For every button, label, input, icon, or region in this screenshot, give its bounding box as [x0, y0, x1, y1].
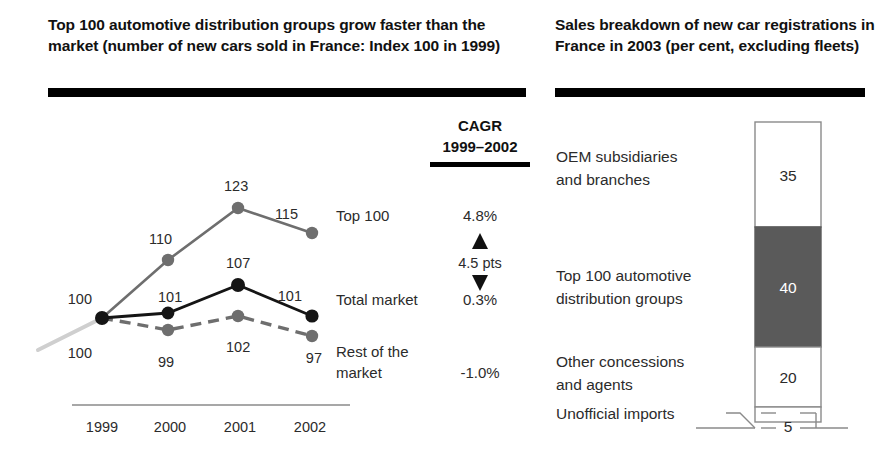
triangle-up-icon — [472, 233, 488, 249]
line-chart: 123 110 115 100 100 99 102 97 107 101 10… — [30, 105, 530, 450]
x-tick-2002: 2002 — [294, 419, 326, 435]
point-label-top100-2001: 123 — [224, 178, 248, 194]
cagr-header-rule — [430, 162, 530, 167]
bar-value-top100: 40 — [779, 279, 797, 296]
cagr-value-total-market: 0.3% — [463, 291, 497, 308]
bar-label-other-line1: Other concessions — [556, 353, 685, 370]
point-label-total-2001: 107 — [226, 255, 250, 271]
bar-value-other-concessions: 20 — [779, 369, 797, 386]
point-label-rest-2001: 102 — [226, 339, 250, 355]
triangle-down-icon — [472, 275, 488, 291]
series-point-rest-2002 — [306, 330, 318, 342]
bar-label-other-line2: and agents — [556, 376, 633, 393]
x-tick-2000: 2000 — [154, 419, 186, 435]
point-label-top100-2002: 115 — [275, 206, 298, 222]
legend-label-rest-line2: market — [336, 364, 383, 381]
bar-value-unofficial-imports: 5 — [784, 418, 793, 435]
cagr-value-rest-of-market: -1.0% — [460, 364, 499, 381]
line-chart-svg: 123 110 115 100 100 99 102 97 107 101 10… — [30, 105, 530, 450]
legend-label-rest-line1: Rest of the — [336, 343, 409, 360]
point-label-rest-1999: 100 — [68, 345, 92, 361]
bar-label-top100-line1: Top 100 automotive — [556, 267, 691, 284]
series-point-top100-2000 — [162, 254, 174, 266]
series-point-rest-2000 — [162, 324, 174, 336]
point-label-top100-2000: 110 — [149, 231, 172, 247]
right-panel-title: Sales breakdown of new car registrations… — [555, 14, 875, 56]
series-point-total-2000 — [162, 307, 175, 320]
bar-label-unofficial-imports: Unofficial imports — [556, 405, 675, 422]
series-point-total-2001 — [231, 278, 245, 292]
point-label-total-2002: 101 — [278, 288, 302, 304]
point-label-top100-1999: 100 — [68, 291, 92, 307]
legend-label-total-market: Total market — [336, 291, 419, 308]
cagr-header-line2: 1999–2002 — [442, 138, 517, 155]
cagr-value-top100: 4.8% — [463, 207, 497, 224]
cagr-header-line1: CAGR — [458, 117, 502, 134]
stacked-bar-svg: 35 40 20 5 OEM subsidiaries and branches… — [548, 105, 887, 455]
left-panel-title: Top 100 automotive distribution groups g… — [48, 14, 528, 56]
series-line-rest — [102, 316, 312, 336]
series-point-total-2002 — [305, 309, 318, 322]
bar-value-oem: 35 — [779, 167, 796, 184]
bar-label-top100-line2: distribution groups — [556, 290, 683, 307]
bar-label-oem-line2: and branches — [556, 171, 650, 188]
series-point-top100-2001 — [232, 202, 244, 214]
series-point-total-1999 — [95, 311, 109, 325]
right-title-rule — [555, 88, 865, 97]
series-point-rest-2001 — [232, 310, 244, 322]
point-label-rest-2002: 97 — [306, 350, 322, 366]
x-tick-1999: 1999 — [86, 419, 118, 435]
cagr-delta-value: 4.5 pts — [458, 255, 502, 271]
point-label-total-2000: 101 — [158, 289, 182, 305]
figure-root: Top 100 automotive distribution groups g… — [0, 0, 887, 455]
series-point-top100-2002 — [306, 227, 318, 239]
left-title-rule — [48, 88, 526, 97]
stacked-bar-chart: 35 40 20 5 OEM subsidiaries and branches… — [548, 105, 887, 455]
point-label-rest-2000: 99 — [158, 354, 174, 370]
bar-label-oem-line1: OEM subsidiaries — [556, 148, 678, 165]
legend-label-top100: Top 100 — [336, 207, 389, 224]
x-tick-2001: 2001 — [224, 419, 256, 435]
callout-leader-line — [726, 413, 755, 428]
